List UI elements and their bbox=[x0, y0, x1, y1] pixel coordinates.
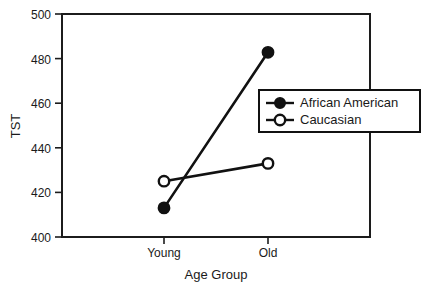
y-tick-label-440: 440 bbox=[31, 142, 51, 156]
x-tick-label-young: Young bbox=[147, 246, 181, 260]
data-point-caucasian-young bbox=[159, 176, 169, 186]
chart-legend: African American Caucasian bbox=[259, 90, 420, 132]
series-line-caucasian bbox=[164, 163, 268, 181]
legend-entry-caucasian: Caucasian bbox=[266, 112, 361, 127]
figure-caption-sliver bbox=[0, 285, 426, 293]
x-axis-title: Age Group bbox=[185, 267, 248, 282]
open-circle-marker-icon bbox=[275, 115, 285, 125]
data-point-caucasian-old bbox=[263, 158, 273, 168]
y-tick-label-460: 460 bbox=[31, 97, 51, 111]
series-line-african-american bbox=[164, 52, 268, 208]
filled-circle-marker-icon bbox=[275, 98, 285, 108]
data-point-african-american-young bbox=[158, 202, 169, 213]
y-tick-label-500: 500 bbox=[31, 8, 51, 22]
x-tick-label-old: Old bbox=[259, 246, 278, 260]
legend-label-caucasian: Caucasian bbox=[300, 112, 361, 127]
legend-label-african-american: African American bbox=[300, 95, 398, 110]
y-tick-label-400: 400 bbox=[31, 231, 51, 245]
y-axis-title: TST bbox=[8, 114, 23, 139]
data-point-african-american-old bbox=[262, 47, 273, 58]
line-chart-plot: 500 480 460 440 420 400 TST Young Old Ag… bbox=[0, 0, 426, 293]
y-tick-label-480: 480 bbox=[31, 53, 51, 67]
y-tick-label-420: 420 bbox=[31, 186, 51, 200]
chart-figure: 500 480 460 440 420 400 TST Young Old Ag… bbox=[0, 0, 426, 293]
